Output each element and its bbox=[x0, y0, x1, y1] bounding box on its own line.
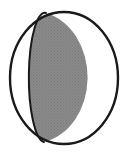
moon-phase-svg bbox=[0, 0, 127, 162]
moon-phase-figure bbox=[0, 0, 127, 162]
